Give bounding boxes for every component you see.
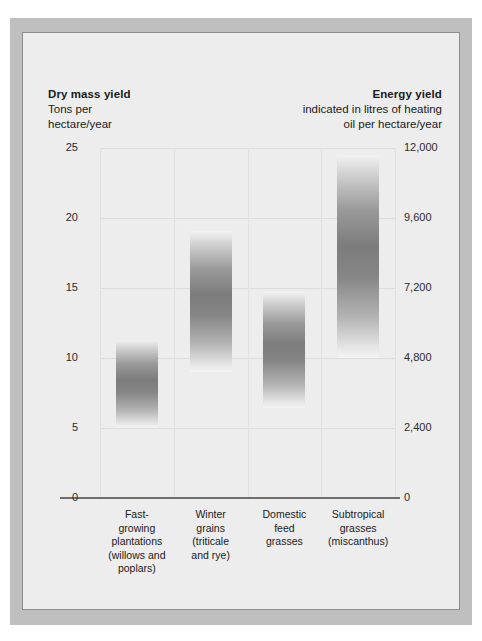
vertical-gridline — [174, 148, 175, 498]
left-axis-header-subtitle: Tons per hectare/year — [48, 103, 112, 130]
right-axis-header: Energy yieldindicated in litres of heati… — [303, 72, 442, 131]
left-axis-tick-label: 20 — [66, 212, 78, 223]
category-label: Subtropical grasses (miscanthus) — [315, 508, 401, 549]
vertical-gridline — [100, 148, 101, 498]
vertical-gridline — [395, 148, 396, 498]
right-axis-tick-label: 4,800 — [404, 352, 432, 363]
right-axis-tick-label: 12,000 — [404, 142, 438, 153]
x-axis-baseline — [60, 497, 400, 499]
right-axis-header-subtitle: indicated in litres of heating oil per h… — [303, 103, 442, 130]
left-axis-tick-label: 15 — [66, 282, 78, 293]
vertical-gridline — [248, 148, 249, 498]
left-axis-tick-label: 10 — [66, 352, 78, 363]
left-axis-header-title: Dry mass yield — [48, 87, 131, 102]
bar — [190, 231, 232, 372]
plot-area — [100, 148, 395, 498]
left-axis-header: Dry mass yieldTons per hectare/year — [48, 72, 131, 131]
left-axis-tick-label: 25 — [66, 142, 78, 153]
bar — [337, 155, 379, 358]
vertical-gridline — [321, 148, 322, 498]
right-axis-tick-label: 2,400 — [404, 422, 432, 433]
right-axis-tick-label: 7,200 — [404, 282, 432, 293]
bar — [116, 340, 158, 428]
right-axis-tick-label: 0 — [404, 492, 410, 503]
right-axis-header-title: Energy yield — [303, 87, 442, 102]
figure-root: Dry mass yieldTons per hectare/year Ener… — [0, 0, 482, 641]
left-axis-tick-label: 0 — [72, 492, 78, 503]
bar — [263, 292, 305, 408]
right-axis-tick-label: 9,600 — [404, 212, 432, 223]
left-axis-tick-label: 5 — [72, 422, 78, 433]
